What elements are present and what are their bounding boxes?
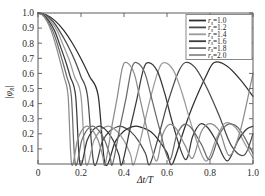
y-axis-title: |φR| xyxy=(4,85,15,99)
x-axis-title: Δt/T xyxy=(136,175,154,185)
y-tick-label-6: 0.7 xyxy=(22,54,34,64)
x-tick-label-1: 0.2 xyxy=(75,168,87,178)
x-tick-label-2: 0.4 xyxy=(118,168,130,178)
legend-label-5: rs=2.0 xyxy=(208,51,227,61)
y-tick-label-4: 0.5 xyxy=(22,84,34,94)
x-tick-label-5: 1.0 xyxy=(247,168,259,178)
y-tick-label-7: 0.8 xyxy=(22,39,34,49)
y-tick-label-0: 0.1 xyxy=(22,144,34,154)
chart-canvas: 00.20.40.60.81.00.10.20.30.40.50.60.70.8… xyxy=(0,0,265,196)
y-tick-label-2: 0.3 xyxy=(22,114,34,124)
y-tick-label-1: 0.2 xyxy=(22,129,34,139)
chart-legend: rs=1.0rs=1.2rs=1.4rs=1.6rs=1.8rs=2.0 xyxy=(186,15,252,61)
y-tick-label-9: 1.0 xyxy=(22,8,34,18)
y-tick-label-3: 0.4 xyxy=(22,99,34,109)
y-tick-label-8: 0.9 xyxy=(22,23,34,33)
svg-text:|φR|: |φR| xyxy=(4,85,15,99)
x-tick-label-0: 0 xyxy=(36,168,41,178)
y-tick-label-5: 0.6 xyxy=(22,69,34,79)
x-tick-label-3: 0.6 xyxy=(161,168,173,178)
x-tick-label-4: 0.8 xyxy=(204,168,216,178)
y-title-end: | xyxy=(4,85,14,88)
y-title-main: |φ xyxy=(4,91,14,99)
figure-container: 00.20.40.60.81.00.10.20.30.40.50.60.70.8… xyxy=(0,0,265,196)
